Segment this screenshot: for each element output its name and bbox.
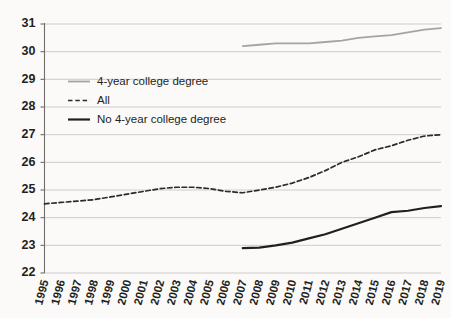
x-tick-label-1999: 1999	[98, 278, 116, 306]
x-tick-label-2018: 2018	[412, 278, 430, 306]
legend-label-4-year-college-degree: 4-year college degree	[97, 75, 208, 87]
x-tick-label-2002: 2002	[148, 278, 166, 306]
x-tick-label-1995: 1995	[32, 278, 50, 306]
x-tick-label-1997: 1997	[65, 278, 83, 306]
y-tick-label-26: 26	[22, 155, 36, 169]
x-tick-label-2015: 2015	[363, 278, 381, 306]
legend-label-no-4-year-college-degree: No 4-year college degree	[97, 113, 226, 125]
chart-legend: 4-year college degreeAllNo 4-year colleg…	[68, 75, 226, 125]
x-tick-label-2016: 2016	[379, 278, 397, 306]
x-tick-label-2009: 2009	[264, 278, 282, 306]
y-tick-label-25: 25	[22, 182, 36, 196]
y-tick-label-28: 28	[22, 99, 36, 113]
x-tick-label-2012: 2012	[313, 278, 331, 306]
y-tick-label-23: 23	[22, 238, 36, 252]
y-axis: 22232425262728293031	[22, 16, 45, 279]
x-tick-label-1996: 1996	[49, 278, 67, 306]
line-chart: 22232425262728293031 1995199619971998199…	[0, 0, 451, 318]
y-tick-label-24: 24	[22, 210, 36, 224]
y-tick-label-30: 30	[22, 44, 36, 58]
series-line-all	[45, 135, 442, 204]
x-tick-label-2001: 2001	[132, 278, 150, 306]
y-tick-label-29: 29	[22, 72, 36, 86]
x-tick-label-2004: 2004	[181, 278, 199, 306]
series-line-4-year-college-degree	[243, 28, 441, 46]
x-tick-label-2008: 2008	[247, 278, 265, 306]
x-tick-label-2006: 2006	[214, 278, 232, 306]
chart-canvas: 22232425262728293031 1995199619971998199…	[0, 0, 451, 318]
x-tick-label-2017: 2017	[396, 278, 414, 306]
x-tick-label-2013: 2013	[330, 278, 348, 306]
x-tick-label-2007: 2007	[231, 278, 249, 306]
x-tick-label-2014: 2014	[346, 278, 364, 306]
y-tick-label-31: 31	[22, 16, 36, 30]
x-tick-label-2011: 2011	[297, 278, 315, 306]
x-tick-label-2000: 2000	[115, 278, 133, 306]
y-tick-label-22: 22	[22, 265, 36, 279]
data-series	[45, 28, 442, 248]
x-tick-label-2005: 2005	[198, 278, 216, 306]
x-tick-label-1998: 1998	[82, 278, 100, 306]
x-axis: 1995199619971998199920002001200220032004…	[32, 278, 447, 306]
x-tick-label-2003: 2003	[165, 278, 183, 306]
series-line-no-4-year-college-degree	[243, 206, 441, 248]
x-tick-label-2010: 2010	[280, 278, 298, 306]
x-tick-label-2019: 2019	[429, 278, 447, 306]
legend-label-all: All	[97, 94, 110, 106]
y-tick-label-27: 27	[22, 127, 36, 141]
